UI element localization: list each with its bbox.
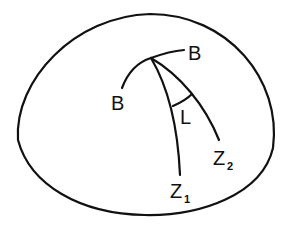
label-angle-l: L <box>180 106 191 128</box>
dome-outline <box>18 14 274 215</box>
label-b-right: B <box>188 42 201 64</box>
label-b-left: B <box>111 92 124 114</box>
label-z1-subscript: 1 <box>184 193 190 205</box>
hemisphere-diagram: B B L Z 1 Z 2 <box>0 0 287 228</box>
angle-arc-l <box>173 94 192 106</box>
arc-b <box>122 50 184 88</box>
label-z2: Z <box>213 147 225 169</box>
label-z2-subscript: 2 <box>227 160 233 172</box>
label-z1: Z <box>170 180 182 202</box>
